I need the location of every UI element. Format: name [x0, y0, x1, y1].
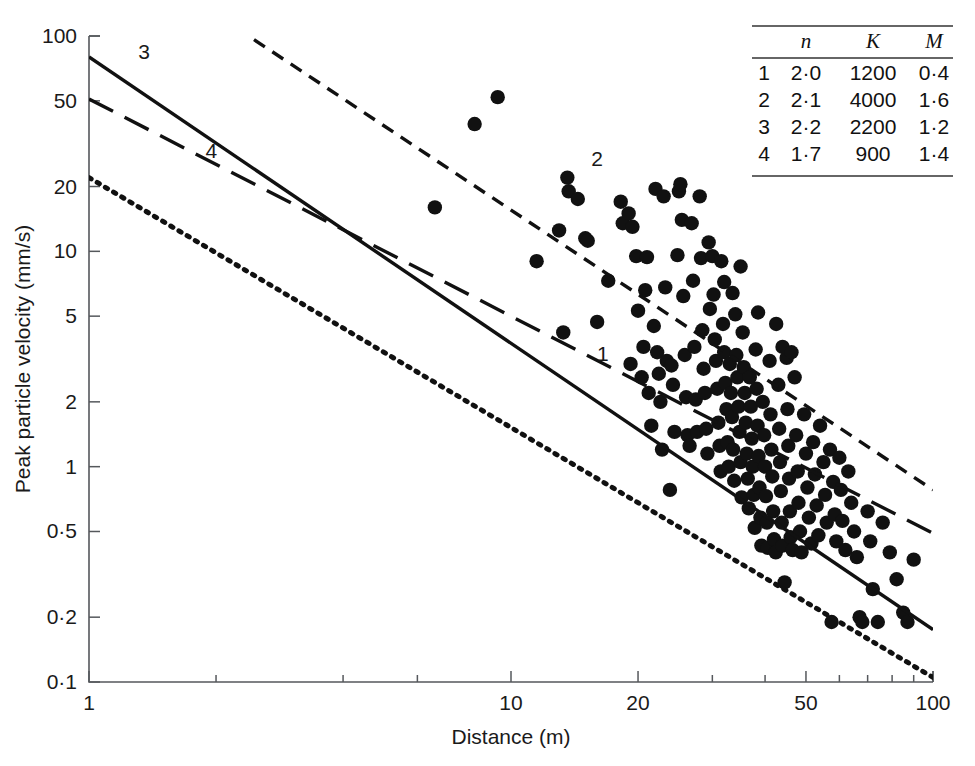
table-row: 22·140001·6 — [758, 88, 949, 111]
data-point — [787, 370, 801, 384]
data-point — [759, 489, 773, 503]
data-point — [490, 90, 504, 104]
data-point — [748, 342, 762, 356]
data-point — [571, 192, 585, 206]
y-tick-label: 1 — [65, 455, 77, 478]
data-point — [806, 435, 820, 449]
table-cell-curve: 4 — [758, 142, 770, 165]
x-axis-title: Distance (m) — [451, 725, 570, 748]
data-point — [906, 552, 920, 566]
x-tick-label: 1 — [83, 691, 95, 714]
parameter-table-layer: nKM12·012000·422·140001·632·222001·241·7… — [752, 26, 953, 176]
y-tick-label: 20 — [54, 175, 77, 198]
data-point — [631, 304, 645, 318]
data-point — [428, 200, 442, 214]
data-point — [686, 274, 700, 288]
data-point — [772, 422, 786, 436]
data-point — [784, 345, 798, 359]
data-point — [716, 317, 730, 331]
data-point — [728, 307, 742, 321]
data-point — [889, 572, 903, 586]
y-tick-label: 0·5 — [47, 519, 77, 542]
table-cell-M: 1·6 — [919, 88, 949, 111]
data-point — [625, 220, 639, 234]
data-point — [614, 195, 628, 209]
data-point — [701, 235, 715, 249]
scatter-log-log-chart: 0·10·20·51251020501001102050100 1234 nKM… — [0, 0, 975, 766]
table-cell-K: 1200 — [850, 61, 897, 84]
table-header-M: M — [924, 29, 944, 53]
x-tick-label: 50 — [794, 691, 817, 714]
data-point — [818, 488, 832, 502]
data-point — [863, 534, 877, 548]
data-point — [640, 250, 654, 264]
data-point — [703, 302, 717, 316]
figure-container: 0·10·20·51251020501001102050100 1234 nKM… — [0, 0, 975, 766]
table-cell-curve: 3 — [758, 115, 770, 138]
data-point — [756, 395, 770, 409]
data-point — [656, 189, 670, 203]
data-point — [682, 439, 696, 453]
data-point — [749, 382, 763, 396]
data-point — [652, 367, 666, 381]
table-cell-n: 2·1 — [791, 88, 821, 111]
data-point — [774, 484, 788, 498]
data-point — [658, 280, 672, 294]
data-point — [666, 378, 680, 392]
data-point — [731, 399, 745, 413]
data-point — [876, 515, 890, 529]
data-point — [699, 422, 713, 436]
x-tick-label: 100 — [915, 691, 950, 714]
data-point — [700, 446, 714, 460]
y-tick-label: 50 — [54, 89, 77, 112]
x-tick-label: 10 — [499, 691, 522, 714]
y-tick-label: 5 — [65, 304, 77, 327]
data-point — [673, 177, 687, 191]
table-row: 41·79001·4 — [758, 142, 949, 165]
data-point — [724, 386, 738, 400]
y-tick-label: 10 — [54, 239, 77, 262]
data-point — [676, 289, 690, 303]
data-point — [751, 305, 765, 319]
data-point — [727, 474, 741, 488]
curve-label-4: 4 — [206, 139, 218, 162]
data-point — [621, 206, 635, 220]
data-point — [871, 615, 885, 629]
data-point — [780, 402, 794, 416]
data-point — [883, 545, 897, 559]
fit-line-stroke-1 — [89, 178, 933, 678]
y-tick-label: 0·1 — [47, 670, 77, 693]
data-point — [560, 170, 574, 184]
data-point — [789, 428, 803, 442]
data-point — [647, 319, 661, 333]
data-point — [763, 407, 777, 421]
table-cell-n: 2·2 — [791, 115, 821, 138]
table-cell-M: 0·4 — [919, 61, 950, 84]
data-point — [757, 428, 771, 442]
data-point — [726, 442, 740, 456]
table-header-n: n — [801, 29, 812, 53]
table-row: 32·222001·2 — [758, 115, 949, 138]
data-point — [855, 615, 869, 629]
data-points-layer — [428, 90, 921, 629]
data-point — [847, 524, 861, 538]
data-point — [698, 386, 712, 400]
data-point — [590, 315, 604, 329]
table-cell-M: 1·4 — [919, 142, 950, 165]
data-point — [670, 248, 684, 262]
data-point — [581, 234, 595, 248]
data-point — [663, 483, 677, 497]
y-tick-label: 2 — [65, 390, 77, 413]
data-point — [636, 340, 650, 354]
data-point — [765, 469, 779, 483]
data-point — [623, 357, 637, 371]
data-point — [556, 325, 570, 339]
table-cell-K: 900 — [855, 142, 890, 165]
curve-label-1: 1 — [597, 342, 609, 365]
data-point — [696, 362, 710, 376]
data-point — [529, 254, 543, 268]
y-axis-title: Peak particle velocity (mm/s) — [11, 225, 34, 493]
data-point — [844, 496, 858, 510]
data-point — [667, 425, 681, 439]
curve-labels-layer: 1234 — [138, 40, 608, 365]
